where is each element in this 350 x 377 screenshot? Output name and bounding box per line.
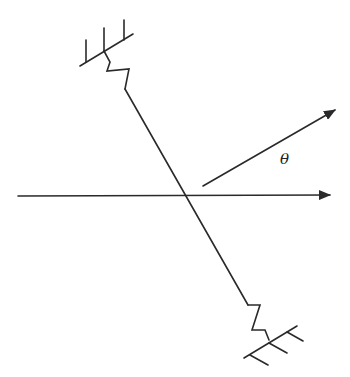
rod [125, 89, 248, 305]
bottom-support-icon [244, 326, 303, 365]
angle-label-theta: θ [280, 150, 289, 168]
top-spring-icon [104, 51, 129, 89]
mechanics-diagram [0, 0, 350, 377]
top-support-icon [80, 20, 133, 66]
diagram-canvas: θ [0, 0, 350, 377]
direction-vector-arrow [203, 110, 335, 186]
bottom-spring-icon [248, 305, 269, 340]
horizontal-axis-arrow [18, 195, 330, 196]
